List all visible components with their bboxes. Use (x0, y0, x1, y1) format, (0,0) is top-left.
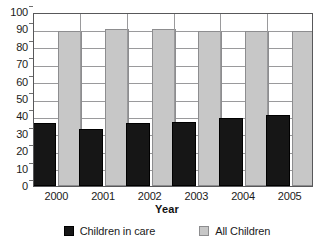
bar-all-children-2005 (292, 31, 313, 186)
legend-item-all-children: All Children (199, 225, 270, 237)
x-axis-tick-label: 2001 (80, 190, 127, 202)
y-axis-tick-label: 50 (0, 94, 28, 105)
legend-swatch-icon-children-in-care (64, 226, 74, 236)
bar-children-in-care-2001 (79, 129, 103, 186)
y-axis-tick-mark (29, 76, 33, 77)
y-axis-tick-mark (29, 145, 33, 146)
bar-children-in-care-2000 (33, 123, 56, 186)
legend-item-children-in-care: Children in care (64, 225, 155, 237)
plot-wrapper: 1009080706050403020100 (0, 0, 334, 196)
y-axis-tick-mark (29, 6, 33, 7)
x-axis-tick-label: 2002 (126, 190, 173, 202)
y-axis-tick-label: 90 (0, 24, 28, 35)
y-axis-tick-label: 60 (0, 77, 28, 88)
bar-children-in-care-2002 (126, 123, 150, 186)
y-axis-tick-label: 20 (0, 146, 28, 157)
y-axis-tick-label: 80 (0, 42, 28, 53)
chart-legend: Children in care All Children (0, 222, 334, 240)
y-axis-tick-label: 40 (0, 111, 28, 122)
y-axis-tick-mark (29, 128, 33, 129)
y-axis-tick-label: 100 (0, 7, 28, 18)
bar-children-in-care-2003 (172, 122, 196, 186)
bar-children-in-care-2004 (219, 118, 243, 186)
legend-label-children-in-care: Children in care (80, 225, 155, 237)
x-axis-tick-label: 2005 (266, 190, 313, 202)
y-axis-tick-mark (29, 180, 33, 181)
y-axis-tick-mark (29, 41, 33, 42)
bar-chart: 1009080706050403020100 20002001200220032… (0, 0, 334, 247)
x-axis-tick-label: 2003 (173, 190, 220, 202)
y-axis-tick-mark (29, 23, 33, 24)
y-axis-tick-label: 30 (0, 129, 28, 140)
y-axis-tick-label: 70 (0, 59, 28, 70)
y-axis-tick-labels: 1009080706050403020100 (0, 7, 28, 193)
bar-children-in-care-2005 (266, 115, 290, 186)
x-axis-title: Year (0, 203, 334, 215)
y-axis-tick-mark (29, 58, 33, 59)
y-axis-tick-mark (29, 93, 33, 94)
legend-label-all-children: All Children (215, 225, 270, 237)
legend-swatch-icon-all-children (199, 226, 209, 236)
x-axis-tick-label: 2000 (33, 190, 80, 202)
y-axis-tick-label: 10 (0, 164, 28, 175)
x-axis-tick-label: 2004 (220, 190, 267, 202)
y-axis-tick-mark (29, 163, 33, 164)
plot-area (33, 13, 313, 187)
y-axis-tick-mark (29, 110, 33, 111)
y-axis-tick-label: 0 (0, 181, 28, 192)
